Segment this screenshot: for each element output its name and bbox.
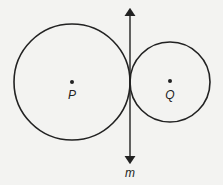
tangent-circles-diagram: P Q m [0,0,223,185]
label-p: P [68,88,76,102]
label-q: Q [165,88,174,102]
center-q-point [168,79,172,83]
label-m: m [125,166,135,180]
center-p-point [70,80,74,84]
